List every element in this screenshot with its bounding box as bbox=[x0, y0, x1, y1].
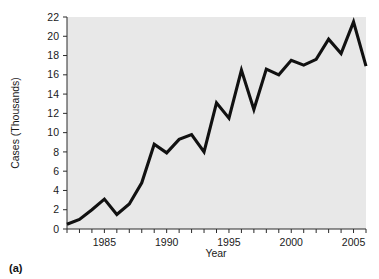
y-tick-label: 0 bbox=[53, 223, 59, 235]
y-tick-label: 22 bbox=[47, 11, 59, 23]
y-tick-label: 14 bbox=[47, 88, 59, 100]
y-tick-label: 20 bbox=[47, 30, 59, 42]
y-axis-tick-labels: 0246810121416182022 bbox=[47, 11, 59, 235]
x-tick-label: 2000 bbox=[280, 236, 304, 248]
y-tick-label: 2 bbox=[53, 203, 59, 215]
y-axis-title: Cases (Thousands) bbox=[9, 77, 21, 169]
figure-caption: (a) bbox=[9, 262, 22, 274]
y-tick-label: 10 bbox=[47, 126, 59, 138]
y-tick-label: 8 bbox=[53, 146, 59, 158]
y-tick-label: 6 bbox=[53, 165, 59, 177]
line-chart: 0246810121416182022 19851990199520002005… bbox=[0, 0, 379, 279]
x-tick-label: 1990 bbox=[155, 236, 179, 248]
x-axis-tick-labels: 19851990199520002005 bbox=[93, 236, 366, 248]
y-tick-label: 18 bbox=[47, 49, 59, 61]
y-tick-label: 16 bbox=[47, 68, 59, 80]
y-axis-tick-marks bbox=[63, 17, 67, 229]
figure-panel-a: 0246810121416182022 19851990199520002005… bbox=[0, 0, 379, 279]
x-axis-tick-marks bbox=[67, 229, 366, 233]
x-tick-label: 2005 bbox=[342, 236, 366, 248]
y-tick-label: 4 bbox=[53, 184, 59, 196]
x-axis-title: Year bbox=[205, 247, 227, 259]
y-tick-label: 12 bbox=[47, 107, 59, 119]
x-tick-label: 1985 bbox=[93, 236, 117, 248]
